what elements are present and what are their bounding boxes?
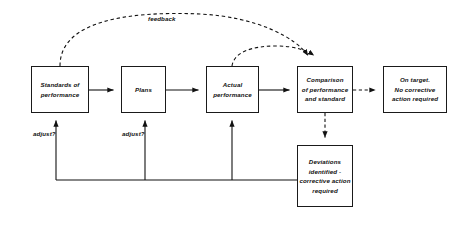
node-comparison-of-performance-and-standard: Comparison of performance and standard bbox=[297, 66, 353, 113]
diagram-connectors bbox=[0, 0, 470, 229]
node-comparison-line-3: and standard bbox=[305, 94, 345, 104]
node-on-target-no-corrective-action: On target. No corrective action required bbox=[383, 66, 447, 113]
node-standards-line-1: Standards of bbox=[40, 80, 79, 90]
node-ontarget-line-1: On target. bbox=[400, 75, 430, 85]
node-actual-line-1: Actual bbox=[223, 80, 243, 90]
edge-label-adjust-plans: adjust? bbox=[122, 130, 145, 137]
node-deviations-line-4: required bbox=[312, 186, 338, 196]
node-standards-line-2: performance bbox=[41, 90, 80, 100]
node-deviations-line-1: Deviations bbox=[309, 157, 341, 167]
node-comparison-line-1: Comparison bbox=[306, 75, 343, 85]
arc-feedback-long bbox=[60, 13, 308, 66]
node-deviations-line-2: identified - bbox=[309, 167, 341, 177]
node-plans-line-1: Plans bbox=[135, 85, 152, 95]
node-actual-performance: Actual performance bbox=[206, 66, 259, 113]
edge-label-feedback: feedback bbox=[148, 15, 176, 22]
node-ontarget-line-3: action required bbox=[392, 94, 438, 104]
node-standards-of-performance: Standards of performance bbox=[31, 66, 89, 113]
node-plans: Plans bbox=[121, 66, 166, 113]
edge-label-adjust-standards: adjust? bbox=[33, 130, 56, 137]
node-ontarget-line-2: No corrective bbox=[395, 85, 436, 95]
node-comparison-line-2: of performance bbox=[302, 85, 348, 95]
node-deviations-identified-corrective-action: Deviations identified - corrective actio… bbox=[297, 145, 353, 207]
node-deviations-line-3: corrective action bbox=[299, 176, 350, 186]
node-actual-line-2: performance bbox=[213, 90, 252, 100]
diagram-canvas: Standards of performance Plans Actual pe… bbox=[0, 0, 470, 229]
